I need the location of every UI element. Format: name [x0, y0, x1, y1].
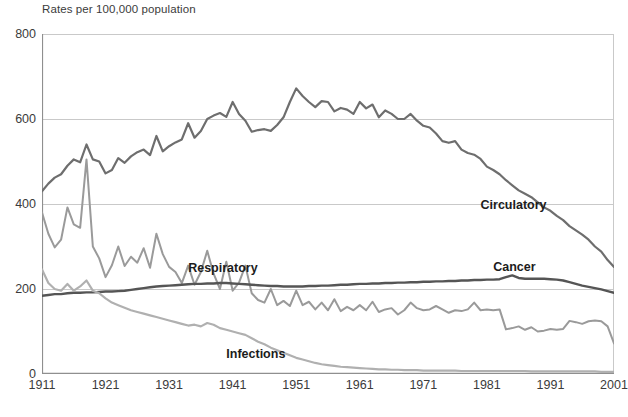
- x-axis-tick-label: 1951: [282, 378, 310, 392]
- chart-axis-title: Rates per 100,000 population: [42, 3, 196, 15]
- x-axis-tick-label: 1931: [155, 378, 183, 392]
- y-axis-tick-label: 200: [15, 282, 36, 296]
- x-axis-tick-label: 2001: [600, 378, 628, 392]
- x-axis-tick-label: 1971: [409, 378, 437, 392]
- x-axis-tick-label: 1981: [473, 378, 501, 392]
- x-axis-tick-label: 1921: [92, 378, 120, 392]
- plot-area: 0200400600800191119211931194119511961197…: [42, 34, 614, 374]
- series-label-circulatory: Circulatory: [481, 198, 547, 212]
- series-line-cancer: [42, 275, 614, 295]
- x-axis-tick-label: 1911: [29, 378, 56, 392]
- series-label-cancer: Cancer: [493, 260, 535, 274]
- x-axis-tick-label: 1941: [219, 378, 247, 392]
- series-line-respiratory: [42, 159, 614, 343]
- series-label-infections: Infections: [226, 347, 285, 361]
- y-axis-tick-label: 600: [15, 112, 36, 126]
- x-axis-tick-label: 1991: [537, 378, 565, 392]
- y-axis-tick-label: 400: [15, 197, 36, 211]
- x-axis-tick-label: 1961: [346, 378, 374, 392]
- series-line-circulatory: [42, 88, 614, 267]
- y-axis-tick-label: 800: [15, 27, 36, 41]
- series-label-respiratory: Respiratory: [188, 261, 257, 275]
